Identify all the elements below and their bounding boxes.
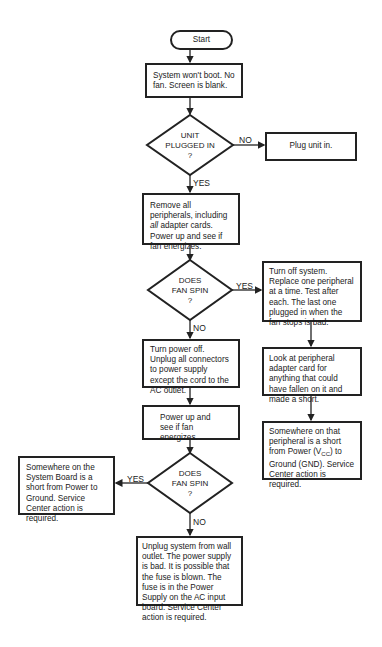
peripheral-short-subscript: CC [321, 451, 330, 457]
decision-line: PLUGGED IN [150, 141, 230, 151]
decision-line: FAN SPIN [150, 286, 230, 296]
no-label: NO [239, 135, 252, 145]
problem-box: System won't boot. No fan. Screen is bla… [145, 63, 243, 98]
power-up-see-box: Power up and see if fan energizes. [142, 405, 240, 440]
plug-in-box: Plug unit in. [265, 132, 357, 161]
system-board-short-text: Somewhere on the System Board is a short… [26, 463, 97, 523]
peripheral-short-box: Somewhere on that peripheral is a short … [262, 421, 362, 480]
decision-plugged-text: UNIT PLUGGED IN ? [150, 131, 230, 161]
decision-line: ? [150, 296, 230, 306]
no-label: NO [193, 323, 206, 333]
turn-power-off-text: Turn power off. Unplug all connectors to… [150, 345, 229, 395]
decision-line: DOES [150, 276, 230, 286]
replace-peripheral-text: Turn off system. Replace one peripheral … [269, 267, 354, 327]
replace-peripheral-box: Turn off system. Replace one peripheral … [262, 261, 362, 322]
remove-text-emphasis: all [150, 221, 158, 230]
start-label: Start [193, 35, 210, 45]
yes-label: YES [127, 474, 144, 484]
power-supply-bad-text: Unplug system from wall outlet. The powe… [142, 542, 231, 622]
remove-peripherals-box: Remove all peripherals, including all ad… [142, 193, 240, 245]
problem-text: System won't boot. No fan. Screen is bla… [153, 71, 235, 90]
decision-line: DOES [150, 469, 230, 479]
look-adapter-box: Look at peripheral adapter card for anyt… [262, 347, 362, 396]
no-label: NO [193, 517, 206, 527]
decision-fan1-text: DOES FAN SPIN ? [150, 276, 230, 306]
yes-label: YES [193, 178, 210, 188]
decision-line: FAN SPIN [150, 479, 230, 489]
system-board-short-box: Somewhere on the System Board is a short… [18, 456, 115, 515]
turn-power-off-box: Turn power off. Unplug all connectors to… [142, 339, 240, 388]
yes-label: YES [236, 281, 253, 291]
power-supply-bad-box: Unplug system from wall outlet. The powe… [136, 536, 243, 606]
decision-fan2-text: DOES FAN SPIN ? [150, 469, 230, 499]
decision-line: UNIT [150, 131, 230, 141]
start-terminal: Start [170, 30, 233, 50]
plug-in-text: Plug unit in. [290, 141, 333, 151]
decision-line: ? [150, 489, 230, 499]
power-up-see-text: Power up and see if fan energizes. [160, 413, 211, 442]
remove-text-1: Remove all peripherals, including [150, 201, 227, 220]
decision-line: ? [150, 151, 230, 161]
